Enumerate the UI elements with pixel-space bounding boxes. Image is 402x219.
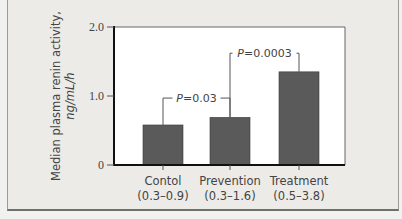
x-tick-range-label: (0.3–0.9) [137,189,188,203]
x-tick-label: Contol [144,174,181,188]
x-tick-range-label: (0.5–3.8) [273,189,324,203]
p-value-label: P=0.03 [176,92,216,105]
p-value-label: P=0.0003 [237,47,291,60]
bar-prevention [210,117,250,165]
x-tick-label: Prevention [199,174,260,188]
bar-chart: Median plasma renin activity, ng/mL/h P=… [0,0,402,219]
x-tick-label: Treatment [269,174,329,188]
y-tick-label: 0 [98,158,104,172]
p-value: =0.03 [183,92,217,105]
y-axis-label-units: ng/mL/h [63,72,77,119]
y-tick-label: 1.0 [89,89,104,103]
y-axis-label: Median plasma renin activity, ng/mL/h [49,11,77,181]
y-tick-label: 2.0 [89,20,104,34]
bar-contol [143,125,183,165]
p-value: =0.0003 [244,47,292,60]
bar-treatment [279,72,319,165]
x-tick-range-label: (0.3–1.6) [204,189,255,203]
y-axis-label-line1: Median plasma renin activity, [49,11,63,181]
